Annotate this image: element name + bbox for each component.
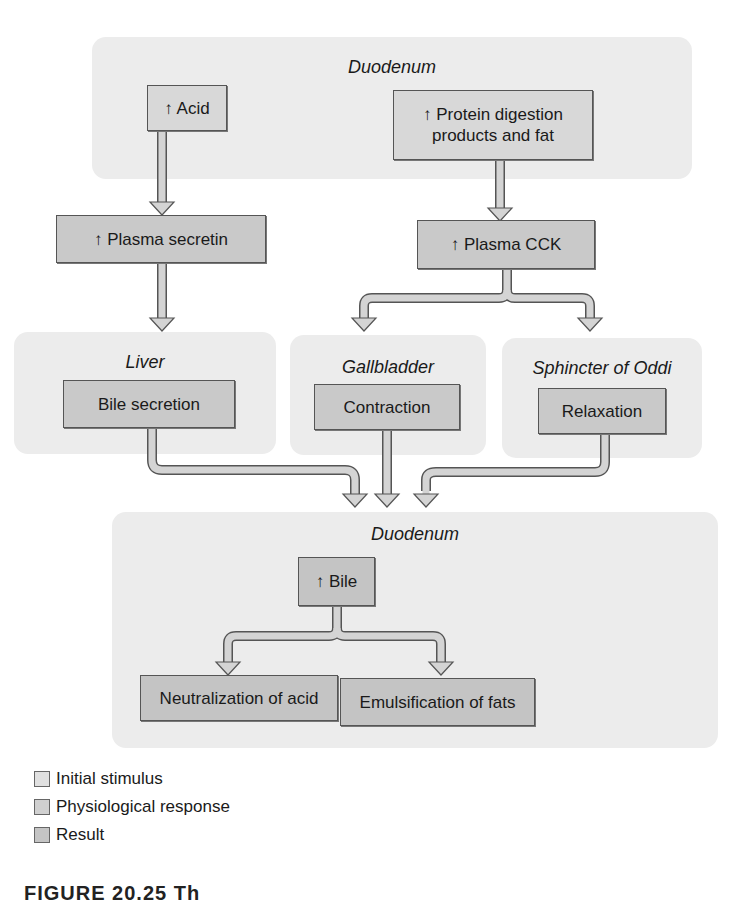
legend-label: Initial stimulus (56, 769, 163, 789)
legend-item-physiological-response: Physiological response (34, 793, 230, 821)
box-plasma-secretin: ↑ Plasma secretin (56, 215, 266, 263)
box-protein: ↑ Protein digestion products and fat (393, 90, 593, 160)
box-relaxation: Relaxation (538, 388, 666, 434)
legend-swatch (34, 799, 50, 815)
box-plasma-cck: ↑ Plasma CCK (417, 220, 595, 269)
box-bile: ↑ Bile (298, 557, 375, 606)
box-emulsification: Emulsification of fats (340, 678, 535, 726)
arrow-acid-to-secretin (150, 130, 174, 215)
figure-caption: FIGURE 20.25 Th (24, 882, 200, 904)
box-acid: ↑ Acid (147, 85, 227, 131)
legend-item-initial-stimulus: Initial stimulus (34, 765, 230, 793)
legend-item-result: Result (34, 821, 230, 849)
legend-swatch (34, 827, 50, 843)
legend: Initial stimulus Physiological response … (34, 765, 230, 849)
arrow-cck-split (352, 269, 602, 331)
box-contraction: Contraction (314, 384, 460, 430)
legend-label: Result (56, 825, 104, 845)
box-protein-line2: products and fat (432, 125, 554, 146)
box-neutralization: Neutralization of acid (140, 675, 338, 721)
arrow-secretin-to-liver (150, 263, 174, 331)
arrow-converge-to-bile (152, 428, 605, 507)
legend-label: Physiological response (56, 797, 230, 817)
legend-swatch (34, 771, 50, 787)
arrow-bile-split (216, 605, 453, 675)
box-protein-line1: ↑ Protein digestion (423, 104, 563, 125)
arrow-protein-to-cck (488, 159, 512, 221)
box-bile-secretion: Bile secretion (63, 380, 235, 428)
